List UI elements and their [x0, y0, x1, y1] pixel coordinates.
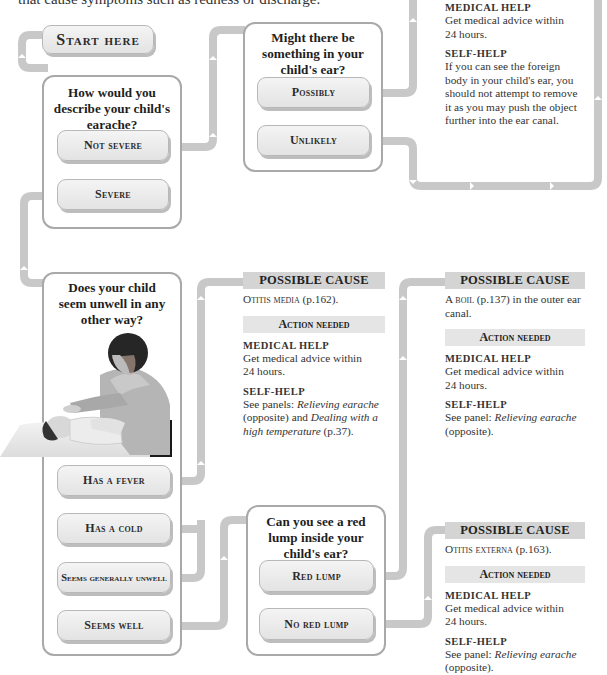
option-severe-button[interactable]: Severe [57, 179, 169, 210]
possible-cause-header: POSSIBLE CAUSE [445, 272, 585, 289]
option-red-lump-button[interactable]: Red lump [259, 560, 374, 592]
medical-help-label: MEDICAL HELP [445, 353, 585, 365]
cause-text: Otitis media (p.162). [243, 293, 385, 307]
link-relieving-earache[interactable]: Relieving earache [495, 648, 577, 660]
medical-help-text: Get medical advice within 24 hours. [445, 602, 585, 629]
connector-notsevere-q2 [172, 30, 245, 147]
question-text: Might there be something in your child's… [245, 30, 381, 78]
panel-otitis-externa: POSSIBLE CAUSE Otitis externa (p.163). A… [445, 522, 585, 675]
option-has-fever-button[interactable]: Has a fever [57, 465, 171, 496]
self-help-label: SELF-HELP [445, 636, 585, 648]
self-help-text: See panels: Relieving earache (opposite)… [243, 398, 385, 439]
self-help-label: SELF-HELP [445, 48, 605, 60]
panel-otitis-media: POSSIBLE CAUSE Otitis media (p.162). Act… [243, 272, 385, 438]
cause-link-otitis-media[interactable]: Otitis media [243, 293, 300, 305]
question-text: How would you describe your child's eara… [44, 85, 180, 133]
action-needed-header: Action needed [445, 566, 585, 583]
option-seems-well-button[interactable]: Seems well [57, 610, 171, 641]
link-relieving-earache[interactable]: Relieving earache [297, 398, 379, 410]
parent-child-photo [0, 325, 172, 457]
panel-foreign-body: MEDICAL HELP Get medical advice within 2… [445, 0, 605, 128]
possible-cause-header: POSSIBLE CAUSE [243, 272, 385, 289]
cause-link-otitis-externa[interactable]: Otitis externa [445, 543, 513, 555]
option-seems-generally-unwell-button[interactable]: Seems generally unwell [57, 562, 171, 593]
self-help-text: See panel: Relieving earache (opposite). [445, 411, 585, 438]
medical-help-label: MEDICAL HELP [243, 340, 385, 352]
medical-help-text: Get medical advice within 24 hours. [445, 14, 605, 41]
link-relieving-earache[interactable]: Relieving earache [495, 411, 577, 423]
cause-text: A boil (p.137) in the outer ear canal. [445, 293, 585, 320]
action-needed-header: Action needed [445, 329, 585, 346]
option-possibly-button[interactable]: Possibly [257, 77, 370, 108]
medical-help-label: MEDICAL HELP [445, 590, 585, 602]
self-help-label: SELF-HELP [445, 399, 585, 411]
medical-help-text: Get medical advice within 24 hours. [243, 352, 385, 379]
action-needed-header: Action needed [243, 316, 385, 333]
self-help-text: See panel: Relieving earache (opposite). [445, 648, 585, 675]
self-help-text: If you can see the foreign body in your … [445, 60, 605, 128]
question-text: Can you see a red lump inside your child… [248, 514, 384, 562]
option-has-cold-button[interactable]: Has a cold [57, 513, 171, 544]
question-text: Does your child seem unwell in any other… [44, 280, 180, 328]
option-unlikely-button[interactable]: Unlikely [257, 125, 370, 156]
option-not-severe-button[interactable]: Not severe [57, 130, 169, 161]
connector-fever-otitismedia [175, 282, 245, 481]
medical-help-text: Get medical advice within 24 hours. [445, 365, 585, 392]
cause-link-boil[interactable]: boil [455, 293, 474, 305]
possible-cause-header: POSSIBLE CAUSE [445, 522, 585, 539]
start-here-button[interactable]: Start here [42, 25, 154, 54]
panel-boil: POSSIBLE CAUSE A boil (p.137) in the out… [445, 272, 585, 438]
connector-seemswell-q4 [175, 520, 250, 626]
self-help-label: SELF-HELP [243, 386, 385, 398]
option-no-red-lump-button[interactable]: No red lump [259, 608, 374, 640]
cause-text: Otitis externa (p.163). [445, 543, 585, 557]
medical-help-label: MEDICAL HELP [445, 2, 605, 14]
